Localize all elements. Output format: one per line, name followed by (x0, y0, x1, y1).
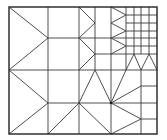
mesh-edge (79, 70, 95, 103)
mesh-edges (9, 7, 157, 134)
mesh-edge (9, 7, 48, 38)
mesh-edge (111, 38, 126, 46)
mesh-diagram (0, 0, 167, 140)
mesh-edge (111, 70, 126, 103)
mesh-edge (79, 23, 95, 38)
mesh-edge (111, 119, 141, 134)
mesh-edge (9, 103, 48, 134)
mesh-edge (111, 7, 126, 15)
mesh-edge (111, 31, 126, 38)
mesh-edge (111, 103, 141, 119)
mesh-edge (134, 54, 141, 70)
mesh-edge (79, 7, 95, 23)
mesh-edge (79, 103, 111, 134)
mesh-edge (95, 70, 111, 103)
mesh-edge (111, 23, 126, 31)
mesh-edge (9, 38, 48, 70)
mesh-edge (111, 46, 126, 54)
mesh-edge (9, 70, 48, 103)
mesh-edge (79, 38, 95, 54)
mesh-edge (111, 86, 141, 103)
mesh-edge (48, 103, 79, 134)
mesh-edge (141, 54, 149, 70)
mesh-node (110, 102, 113, 105)
mesh-edge (149, 54, 157, 70)
mesh-border (9, 7, 157, 134)
mesh-edge (126, 54, 134, 70)
mesh-edge (79, 54, 95, 70)
mesh-nodes (110, 102, 113, 105)
mesh-edge (111, 15, 126, 23)
